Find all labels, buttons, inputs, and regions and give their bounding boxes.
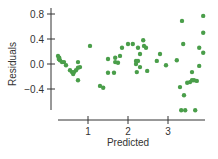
data-point — [118, 54, 122, 58]
data-point — [197, 46, 201, 50]
residual-scatter-plot: 0.80.40.0−0.4 123 Predicted Residuals — [0, 0, 218, 159]
data-point — [78, 65, 82, 69]
data-point — [135, 70, 139, 74]
data-point — [88, 44, 92, 48]
data-point — [144, 46, 148, 50]
data-points — [56, 14, 206, 113]
y-axis-ticks: 0.80.40.0−0.4 — [24, 9, 55, 95]
y-axis-title: Residuals — [7, 42, 18, 86]
data-point — [181, 42, 185, 46]
y-tick-label: 0.0 — [30, 59, 44, 70]
data-point — [158, 52, 162, 56]
x-axis-title: Predicted — [107, 137, 149, 148]
data-point — [155, 59, 159, 63]
data-point — [101, 86, 105, 90]
data-point — [178, 85, 182, 89]
data-point — [120, 46, 124, 50]
data-point — [106, 71, 110, 75]
data-point — [138, 52, 142, 56]
data-point — [76, 78, 80, 82]
data-point — [76, 60, 80, 64]
data-point — [57, 57, 61, 61]
data-point — [116, 61, 120, 65]
data-point — [182, 93, 186, 97]
data-point — [175, 58, 179, 62]
data-point — [136, 59, 140, 63]
data-point — [71, 72, 75, 76]
data-point — [112, 71, 116, 75]
data-point — [131, 42, 135, 46]
y-tick-label: 0.8 — [30, 9, 44, 20]
x-tick-label: 3 — [165, 126, 171, 137]
data-point — [138, 65, 142, 69]
data-point — [106, 57, 110, 61]
data-point — [197, 64, 201, 68]
data-point — [183, 108, 187, 112]
data-point — [180, 19, 184, 23]
data-point — [141, 38, 145, 42]
data-point — [164, 63, 168, 67]
x-axis-ticks: 123 — [85, 116, 171, 137]
data-point — [64, 63, 68, 67]
data-point — [195, 79, 199, 83]
x-tick-label: 2 — [125, 126, 131, 137]
data-point — [201, 14, 205, 18]
y-tick-label: −0.4 — [24, 84, 44, 95]
data-point — [126, 42, 130, 46]
data-point — [201, 51, 205, 55]
data-point — [190, 70, 194, 74]
data-point — [179, 108, 183, 112]
data-point — [136, 46, 140, 50]
data-point — [113, 56, 117, 60]
data-point — [201, 31, 205, 35]
data-point — [193, 108, 197, 112]
data-point — [145, 69, 149, 73]
y-tick-label: 0.4 — [30, 34, 44, 45]
x-tick-label: 1 — [85, 126, 91, 137]
